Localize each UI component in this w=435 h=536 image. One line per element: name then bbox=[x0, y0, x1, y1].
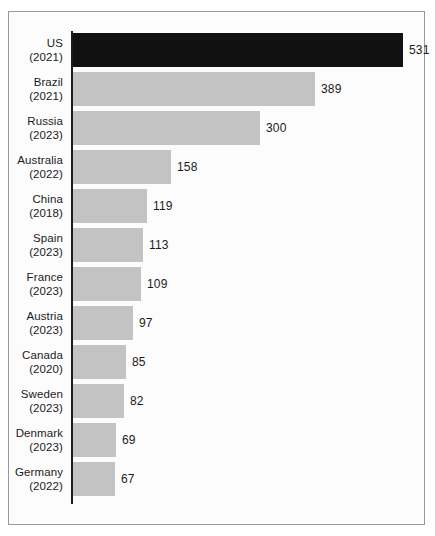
bar-row: Canada(2020)85 bbox=[9, 345, 424, 379]
bar-category-label: Austria(2023) bbox=[0, 306, 63, 340]
bar-category-name: Denmark bbox=[16, 426, 63, 440]
bar-row: Spain(2023)113 bbox=[9, 228, 424, 262]
bar-category-year: (2023) bbox=[29, 245, 63, 259]
bar-row: Australia(2022)158 bbox=[9, 150, 424, 184]
bar-value-label: 67 bbox=[121, 462, 135, 496]
bar-category-year: (2023) bbox=[29, 128, 63, 142]
bar-category-name: Spain bbox=[33, 231, 63, 245]
bar-row: Germany(2022)67 bbox=[9, 462, 424, 496]
bar-category-year: (2023) bbox=[29, 323, 63, 337]
bar-chart-plot-area: US(2021)531Brazil(2021)389Russia(2023)30… bbox=[9, 12, 424, 524]
bar-category-name: China bbox=[32, 192, 63, 206]
bar bbox=[73, 33, 403, 67]
bar-category-name: Russia bbox=[27, 114, 63, 128]
bar-category-label: US(2021) bbox=[0, 33, 63, 67]
bar bbox=[73, 228, 143, 262]
bar-value-label: 82 bbox=[130, 384, 144, 418]
bar-category-year: (2023) bbox=[29, 440, 63, 454]
bar-category-name: France bbox=[27, 270, 63, 284]
bar-category-label: Spain(2023) bbox=[0, 228, 63, 262]
bar-category-label: Sweden(2023) bbox=[0, 384, 63, 418]
bar-value-label: 109 bbox=[147, 267, 168, 301]
bar-row: Austria(2023)97 bbox=[9, 306, 424, 340]
bar-category-name: Sweden bbox=[21, 387, 63, 401]
chart-frame: US(2021)531Brazil(2021)389Russia(2023)30… bbox=[8, 11, 425, 525]
bar bbox=[73, 72, 315, 106]
bar-category-year: (2018) bbox=[29, 206, 63, 220]
bar-category-name: Germany bbox=[15, 465, 63, 479]
bar-row: Sweden(2023)82 bbox=[9, 384, 424, 418]
bar-category-name: Australia bbox=[17, 153, 63, 167]
bar-category-year: (2022) bbox=[29, 479, 63, 493]
bar-row: China(2018)119 bbox=[9, 189, 424, 223]
bar-row: Denmark(2023)69 bbox=[9, 423, 424, 457]
bar-category-label: France(2023) bbox=[0, 267, 63, 301]
bar bbox=[73, 423, 116, 457]
bar bbox=[73, 189, 147, 223]
bar bbox=[73, 267, 141, 301]
bar bbox=[73, 150, 171, 184]
bar-category-year: (2021) bbox=[29, 89, 63, 103]
bar-category-name: US bbox=[47, 36, 63, 50]
bar-row: Russia(2023)300 bbox=[9, 111, 424, 145]
bar-category-year: (2023) bbox=[29, 401, 63, 415]
bar bbox=[73, 306, 133, 340]
bar-category-year: (2023) bbox=[29, 284, 63, 298]
bar-category-year: (2021) bbox=[29, 50, 63, 64]
bar bbox=[73, 111, 260, 145]
bar bbox=[73, 345, 126, 379]
bar-value-label: 389 bbox=[321, 72, 342, 106]
bar-category-year: (2022) bbox=[29, 167, 63, 181]
bar-category-label: China(2018) bbox=[0, 189, 63, 223]
bar-value-label: 85 bbox=[132, 345, 146, 379]
bar-category-label: Germany(2022) bbox=[0, 462, 63, 496]
bar-value-label: 300 bbox=[266, 111, 287, 145]
bar-value-label: 69 bbox=[122, 423, 136, 457]
bar-value-label: 158 bbox=[177, 150, 198, 184]
bar-category-label: Brazil(2021) bbox=[0, 72, 63, 106]
bar-category-name: Brazil bbox=[34, 75, 63, 89]
bar-category-name: Austria bbox=[27, 309, 64, 323]
bar-row: Brazil(2021)389 bbox=[9, 72, 424, 106]
bar-value-label: 531 bbox=[409, 33, 430, 67]
bar-value-label: 113 bbox=[149, 228, 169, 262]
bar-value-label: 119 bbox=[153, 189, 173, 223]
bar-row: France(2023)109 bbox=[9, 267, 424, 301]
bar-category-label: Australia(2022) bbox=[0, 150, 63, 184]
bar-category-label: Denmark(2023) bbox=[0, 423, 63, 457]
bar-category-label: Russia(2023) bbox=[0, 111, 63, 145]
bar-value-label: 97 bbox=[139, 306, 153, 340]
bar-category-label: Canada(2020) bbox=[0, 345, 63, 379]
bar-category-name: Canada bbox=[22, 348, 63, 362]
bar bbox=[73, 384, 124, 418]
bar-category-year: (2020) bbox=[29, 362, 63, 376]
bar-row: US(2021)531 bbox=[9, 33, 424, 67]
bar bbox=[73, 462, 115, 496]
